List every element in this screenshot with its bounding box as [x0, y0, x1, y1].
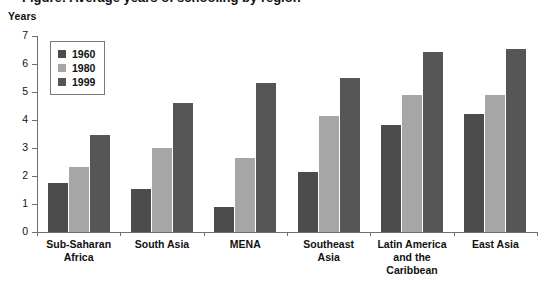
category-label: MENA [204, 238, 287, 251]
y-axis-tick: 5 [32, 92, 37, 93]
legend-entry: 1999 [58, 75, 95, 89]
bar [90, 135, 110, 232]
bar [173, 103, 193, 232]
category-label: SoutheastAsia [287, 238, 370, 264]
bar [485, 95, 505, 232]
x-axis-tick [537, 232, 538, 236]
bar [319, 116, 339, 232]
bar [423, 52, 443, 232]
bar [256, 83, 276, 232]
x-axis-tick [370, 232, 371, 236]
bar [152, 148, 172, 232]
legend-entry-label: 1980 [72, 61, 95, 75]
bar [506, 49, 526, 232]
x-axis-tick [37, 232, 38, 236]
y-axis-tick-label: 3 [22, 141, 28, 153]
square-swatch-icon [58, 50, 66, 58]
category-label: South Asia [120, 238, 203, 251]
bar [464, 114, 484, 232]
bar [214, 207, 234, 232]
bar [69, 167, 89, 232]
y-axis-tick-label: 0 [22, 225, 28, 237]
y-axis-tick-label: 4 [22, 113, 28, 125]
category-label-line: and the [370, 251, 453, 264]
category-label-line: South Asia [120, 238, 203, 251]
y-axis-tick-label: 7 [22, 29, 28, 41]
legend-entry-label: 1960 [72, 47, 95, 61]
category-label: Sub-SaharanAfrica [37, 238, 120, 264]
y-axis-tick-label: 1 [22, 197, 28, 209]
y-axis-unit-label: Years [8, 10, 37, 22]
figure-caption-clipped: Figure: Average years of schooling by re… [22, 0, 442, 5]
y-axis-tick: 4 [32, 120, 37, 121]
figure-caption-text: Figure: Average years of schooling by re… [22, 0, 442, 4]
x-axis-tick [454, 232, 455, 236]
category-label-line: Sub-Saharan [37, 238, 120, 251]
y-axis-tick: 6 [32, 64, 37, 65]
y-axis-tick-label: 6 [22, 57, 28, 69]
legend-entry: 1980 [58, 61, 95, 75]
category-label-line: East Asia [454, 238, 537, 251]
y-axis-tick: 3 [32, 148, 37, 149]
plot-area: 01234567 [37, 36, 537, 232]
chart-legend: 196019801999 [50, 41, 105, 95]
y-axis-tick-label: 5 [22, 85, 28, 97]
legend-entry: 1960 [58, 47, 95, 61]
x-axis-tick [120, 232, 121, 236]
category-label-line: Caribbean [370, 264, 453, 277]
bar [402, 95, 422, 232]
bar [340, 78, 360, 232]
bar [381, 125, 401, 232]
category-label: East Asia [454, 238, 537, 251]
bar [48, 183, 68, 232]
category-label-line: Asia [287, 251, 370, 264]
y-axis-tick: 2 [32, 176, 37, 177]
bar [298, 172, 318, 232]
square-swatch-icon [58, 64, 66, 72]
x-axis-tick [287, 232, 288, 236]
bar [131, 189, 151, 232]
bar-chart-figure: Figure: Average years of schooling by re… [0, 0, 549, 290]
y-axis-tick-label: 2 [22, 169, 28, 181]
category-label-line: MENA [204, 238, 287, 251]
y-axis-tick: 7 [32, 36, 37, 37]
category-label-line: Africa [37, 251, 120, 264]
bar [235, 158, 255, 232]
square-swatch-icon [58, 78, 66, 86]
y-axis-tick: 1 [32, 204, 37, 205]
category-label-line: Latin America [370, 238, 453, 251]
y-axis-line [37, 36, 38, 232]
legend-entry-label: 1999 [72, 75, 95, 89]
category-label-line: Southeast [287, 238, 370, 251]
category-label: Latin Americaand theCaribbean [370, 238, 453, 277]
x-axis-tick [204, 232, 205, 236]
